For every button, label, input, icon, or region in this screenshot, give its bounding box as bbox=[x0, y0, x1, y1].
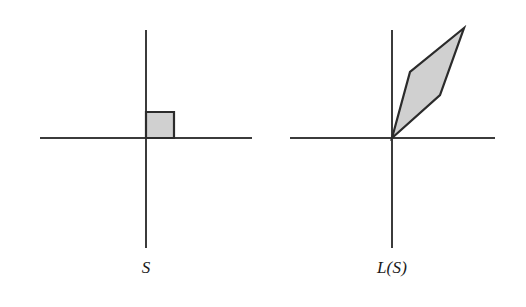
panel-s bbox=[40, 30, 252, 248]
figure-canvas bbox=[0, 0, 526, 307]
unit-square-region bbox=[146, 112, 174, 138]
transformed-parallelogram-region bbox=[392, 28, 464, 138]
panel-ls bbox=[290, 28, 495, 248]
panel-ls-caption: L(S) bbox=[352, 258, 432, 278]
panel-s-caption: S bbox=[106, 258, 186, 278]
